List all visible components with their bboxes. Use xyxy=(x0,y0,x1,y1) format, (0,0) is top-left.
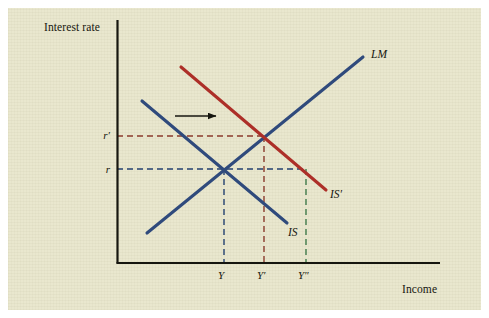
isml-figure: Interest rate Income LM IS IS′ r′ r Y Y′… xyxy=(0,0,489,318)
y-tick-label-r-prime: r′ xyxy=(92,129,110,141)
x-axis-title: Income xyxy=(402,283,437,295)
x-tick-label-Y-double-prime: Y″ xyxy=(298,269,309,281)
x-tick-label-Y: Y xyxy=(218,269,224,281)
y-axis-title: Interest rate xyxy=(44,21,100,33)
lm-curve-label: LM xyxy=(371,48,387,60)
lm-curve xyxy=(147,57,363,233)
is-curve-label: IS xyxy=(288,226,298,238)
is-prime-curve-label: IS′ xyxy=(330,188,342,200)
chart-graphics xyxy=(0,0,489,318)
is-curve xyxy=(142,101,287,223)
y-tick-label-r: r xyxy=(92,163,110,175)
is-prime-curve xyxy=(181,67,326,190)
x-tick-label-Y-prime: Y′ xyxy=(257,269,266,281)
